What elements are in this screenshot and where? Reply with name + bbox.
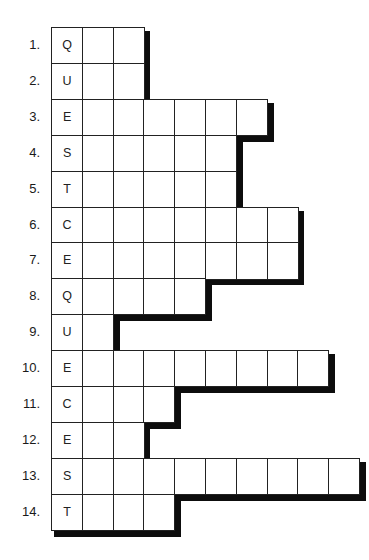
drop-shadow	[144, 31, 150, 64]
letter-cell-empty[interactable]	[82, 494, 114, 531]
letter-cell-empty[interactable]	[82, 27, 114, 64]
row-number-label: 6.	[4, 207, 40, 243]
drop-shadow	[174, 387, 335, 393]
letter-cell-empty[interactable]	[143, 207, 175, 244]
letter-cell-empty[interactable]	[236, 99, 268, 136]
letter-cell-empty[interactable]	[113, 135, 145, 172]
drop-shadow	[174, 495, 366, 501]
letter-cell-empty[interactable]	[143, 99, 175, 136]
letter-cell-empty[interactable]	[267, 242, 299, 279]
letter-cell-empty[interactable]	[205, 171, 237, 208]
letter-cell-given[interactable]: C	[51, 207, 83, 244]
letter-cell-empty[interactable]	[174, 350, 206, 387]
letter-cell-empty[interactable]	[328, 458, 360, 495]
letter-cell-empty[interactable]	[82, 350, 114, 387]
letter-cell-given[interactable]: T	[51, 494, 83, 531]
letter-cell-empty[interactable]	[113, 242, 145, 279]
letter-cell-empty[interactable]	[82, 386, 114, 423]
letter-cell-empty[interactable]	[205, 458, 237, 495]
letter-cell-given[interactable]: E	[51, 99, 83, 136]
letter-cell-empty[interactable]	[143, 135, 175, 172]
letter-cell-given[interactable]: E	[51, 242, 83, 279]
letter-cell-empty[interactable]	[113, 207, 145, 244]
letter-cell-empty[interactable]	[113, 63, 145, 100]
letter-cell-empty[interactable]	[174, 278, 206, 315]
drop-shadow	[144, 422, 150, 459]
letter-cell-empty[interactable]	[205, 99, 237, 136]
letter-cell-given[interactable]: C	[51, 386, 83, 423]
letter-cell-empty[interactable]	[82, 314, 114, 351]
letter-cell-given[interactable]: T	[51, 171, 83, 208]
drop-shadow	[298, 242, 304, 279]
letter-cell-empty[interactable]	[82, 63, 114, 100]
row-number-label: 14.	[4, 494, 40, 530]
row-number-label: 12.	[4, 422, 40, 458]
letter-cell-empty[interactable]	[113, 422, 145, 459]
letter-cell-given[interactable]: E	[51, 422, 83, 459]
letter-cell-empty[interactable]	[82, 278, 114, 315]
letter-cell-empty[interactable]	[113, 458, 145, 495]
letter-cell-empty[interactable]	[113, 494, 145, 531]
drop-shadow	[54, 531, 181, 537]
drop-shadow	[175, 386, 181, 423]
drop-shadow	[237, 135, 243, 172]
drop-shadow	[268, 103, 274, 136]
letter-cell-empty[interactable]	[82, 135, 114, 172]
letter-cell-empty[interactable]	[297, 350, 329, 387]
letter-cell-empty[interactable]	[267, 350, 299, 387]
letter-cell-given[interactable]: S	[51, 135, 83, 172]
letter-cell-empty[interactable]	[236, 207, 268, 244]
letter-cell-empty[interactable]	[82, 99, 114, 136]
row-number-label: 4.	[4, 135, 40, 171]
letter-cell-empty[interactable]	[113, 386, 145, 423]
letter-cell-empty[interactable]	[174, 99, 206, 136]
letter-cell-empty[interactable]	[82, 458, 114, 495]
letter-cell-empty[interactable]	[236, 242, 268, 279]
letter-cell-empty[interactable]	[236, 458, 268, 495]
row-number-label: 11.	[4, 386, 40, 422]
letter-cell-empty[interactable]	[267, 458, 299, 495]
letter-cell-given[interactable]: Q	[51, 278, 83, 315]
crossword-grid: 1.Q2.U3.E4.S5.T6.C7.E8.Q9.U10.E11.C12.E1…	[0, 0, 369, 560]
drop-shadow	[205, 279, 304, 285]
letter-cell-given[interactable]: U	[51, 314, 83, 351]
letter-cell-empty[interactable]	[174, 171, 206, 208]
letter-cell-empty[interactable]	[113, 99, 145, 136]
letter-cell-given[interactable]: E	[51, 350, 83, 387]
letter-cell-empty[interactable]	[82, 242, 114, 279]
letter-cell-empty[interactable]	[297, 458, 329, 495]
letter-cell-empty[interactable]	[174, 135, 206, 172]
row-number-label: 2.	[4, 63, 40, 99]
letter-cell-empty[interactable]	[143, 171, 175, 208]
letter-cell-empty[interactable]	[205, 242, 237, 279]
letter-cell-empty[interactable]	[82, 422, 114, 459]
letter-cell-empty[interactable]	[143, 350, 175, 387]
letter-cell-empty[interactable]	[143, 386, 175, 423]
letter-cell-given[interactable]: U	[51, 63, 83, 100]
letter-cell-empty[interactable]	[113, 278, 145, 315]
letter-cell-empty[interactable]	[205, 135, 237, 172]
letter-cell-given[interactable]: Q	[51, 27, 83, 64]
letter-cell-empty[interactable]	[113, 171, 145, 208]
letter-cell-empty[interactable]	[174, 458, 206, 495]
letter-cell-empty[interactable]	[113, 27, 145, 64]
letter-cell-given[interactable]: S	[51, 458, 83, 495]
letter-cell-empty[interactable]	[174, 207, 206, 244]
letter-cell-empty[interactable]	[236, 350, 268, 387]
letter-cell-empty[interactable]	[267, 207, 299, 244]
letter-cell-empty[interactable]	[82, 207, 114, 244]
letter-cell-empty[interactable]	[113, 350, 145, 387]
drop-shadow	[360, 462, 366, 495]
letter-cell-empty[interactable]	[143, 494, 175, 531]
letter-cell-empty[interactable]	[143, 458, 175, 495]
letter-cell-empty[interactable]	[143, 242, 175, 279]
row-number-label: 7.	[4, 242, 40, 278]
letter-cell-empty[interactable]	[205, 207, 237, 244]
letter-cell-empty[interactable]	[205, 350, 237, 387]
letter-cell-empty[interactable]	[82, 171, 114, 208]
row-number-label: 8.	[4, 278, 40, 314]
drop-shadow	[237, 171, 243, 208]
letter-cell-empty[interactable]	[143, 278, 175, 315]
row-number-label: 5.	[4, 171, 40, 207]
letter-cell-empty[interactable]	[174, 242, 206, 279]
